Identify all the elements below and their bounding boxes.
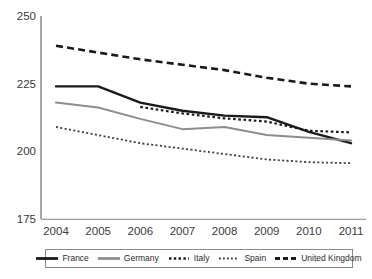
y-tick-label: 200 (17, 145, 36, 157)
legend-item-united-kingdom[interactable]: United Kingdom (275, 254, 361, 263)
series-line-united-kingdom (56, 46, 351, 87)
x-tick-label: 2006 (127, 225, 153, 237)
thick-dotted-line-swatch (168, 254, 190, 263)
solid-gray-line-swatch (98, 254, 120, 263)
x-tick-label: 2005 (85, 225, 111, 237)
fine-dotted-line-swatch (218, 254, 240, 263)
x-tick-label: 2004 (43, 225, 69, 237)
legend-item-france[interactable]: France (36, 254, 88, 263)
legend-label-united-kingdom: United Kingdom (301, 254, 361, 263)
legend-label-spain: Spain (244, 254, 266, 263)
y-tick-label: 250 (17, 10, 36, 22)
series-line-spain (56, 127, 351, 163)
x-tick-label: 2008 (212, 225, 238, 237)
x-tick-label: 2010 (296, 225, 322, 237)
x-tick-label: 2011 (339, 225, 364, 237)
legend-label-france: France (62, 254, 88, 263)
legend-item-spain[interactable]: Spain (218, 254, 266, 263)
y-tick-label: 175 (17, 213, 36, 225)
chart-canvas: 250225200175 200420052006200720082009201… (0, 0, 372, 279)
series-line-italy (140, 107, 351, 132)
data-series-group (56, 46, 351, 163)
x-tick-label: 2009 (254, 225, 280, 237)
y-tick-label: 225 (17, 78, 36, 90)
line-chart: 250225200175 200420052006200720082009201… (0, 0, 372, 279)
legend-label-germany: Germany (124, 254, 159, 263)
x-axis-tick-labels: 20042005200620072008200920102011 (43, 225, 363, 237)
chart-legend: France Germany Italy Spain United Kingdo… (45, 249, 353, 268)
x-tick-label: 2007 (170, 225, 196, 237)
dashed-line-swatch (275, 254, 297, 263)
legend-item-germany[interactable]: Germany (98, 254, 159, 263)
legend-item-italy[interactable]: Italy (168, 254, 210, 263)
y-axis-tick-labels: 250225200175 (17, 10, 36, 225)
legend-label-italy: Italy (194, 254, 210, 263)
solid-black-line-swatch (36, 254, 58, 263)
